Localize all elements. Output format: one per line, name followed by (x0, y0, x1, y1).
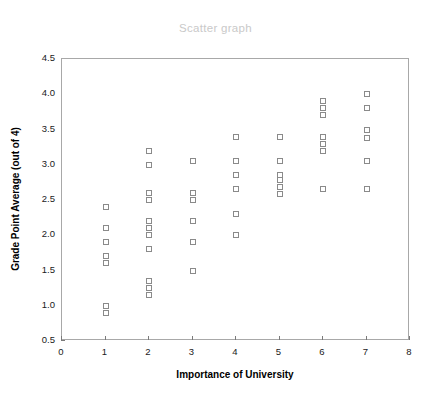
y-tick-label: 3.0 (25, 159, 55, 169)
data-point (320, 186, 326, 192)
data-point (146, 232, 152, 238)
data-point (146, 225, 152, 231)
data-point (277, 177, 283, 183)
x-tick-mark (105, 336, 106, 340)
plot-area (61, 58, 409, 340)
x-tick-label: 8 (399, 347, 419, 357)
chart-title: Scatter graph (0, 22, 431, 34)
data-point (190, 239, 196, 245)
x-tick-mark (279, 336, 280, 340)
data-point (364, 158, 370, 164)
data-point (146, 197, 152, 203)
data-point (233, 232, 239, 238)
x-tick-mark (235, 336, 236, 340)
data-point (233, 211, 239, 217)
data-point (364, 186, 370, 192)
y-tick-label: 2.5 (25, 194, 55, 204)
y-tick-label: 4.5 (25, 53, 55, 63)
data-point (146, 162, 152, 168)
y-tick-label: 4.0 (25, 88, 55, 98)
data-point (146, 218, 152, 224)
data-point (190, 158, 196, 164)
y-tick-mark (61, 340, 65, 341)
x-tick-mark (366, 336, 367, 340)
y-tick-label: 0.5 (25, 335, 55, 345)
data-point (320, 148, 326, 154)
data-point (190, 268, 196, 274)
data-point (320, 105, 326, 111)
data-point (103, 204, 109, 210)
data-point (190, 218, 196, 224)
data-point (190, 197, 196, 203)
data-point (146, 148, 152, 154)
data-point (146, 285, 152, 291)
x-tick-label: 4 (225, 347, 245, 357)
data-point (103, 253, 109, 259)
data-point (103, 225, 109, 231)
data-point (190, 190, 196, 196)
data-point (277, 134, 283, 140)
scatter-chart-figure: Scatter graph Grade Point Average (out o… (0, 0, 431, 401)
data-point (146, 246, 152, 252)
x-tick-mark (61, 336, 62, 340)
x-tick-label: 3 (182, 347, 202, 357)
x-tick-mark (192, 336, 193, 340)
data-point (146, 292, 152, 298)
x-tick-label: 2 (138, 347, 158, 357)
data-point (320, 98, 326, 104)
x-axis-label: Importance of University (61, 369, 409, 380)
data-point (364, 135, 370, 141)
y-axis-label: Grade Point Average (out of 4) (10, 127, 21, 271)
x-tick-label: 5 (269, 347, 289, 357)
x-tick-mark (322, 336, 323, 340)
y-tick-label: 1.5 (25, 265, 55, 275)
data-point (103, 239, 109, 245)
data-point (277, 184, 283, 190)
x-tick-mark (148, 336, 149, 340)
data-point (277, 191, 283, 197)
x-tick-mark (409, 336, 410, 340)
y-axis-label-container: Grade Point Average (out of 4) (6, 58, 24, 340)
x-tick-label: 6 (312, 347, 332, 357)
data-point (146, 190, 152, 196)
data-point (320, 134, 326, 140)
data-point (364, 105, 370, 111)
data-point (103, 260, 109, 266)
x-tick-label: 0 (51, 347, 71, 357)
y-tick-label: 3.5 (25, 124, 55, 134)
data-point (277, 158, 283, 164)
data-point (146, 278, 152, 284)
data-point (103, 310, 109, 316)
data-point (320, 141, 326, 147)
data-point (364, 91, 370, 97)
data-point (233, 186, 239, 192)
data-point (364, 127, 370, 133)
data-point (233, 158, 239, 164)
y-tick-label: 1.0 (25, 300, 55, 310)
data-point (233, 172, 239, 178)
data-point (233, 134, 239, 140)
data-point (320, 112, 326, 118)
x-tick-label: 1 (95, 347, 115, 357)
data-point (103, 303, 109, 309)
x-tick-label: 7 (356, 347, 376, 357)
y-tick-label: 2.0 (25, 229, 55, 239)
